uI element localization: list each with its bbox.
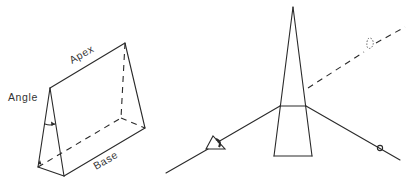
emergent-ray-lower — [166, 149, 208, 173]
prism-cross-section — [274, 7, 312, 156]
label-angle: Angle — [8, 91, 38, 103]
hidden-back-base-edge — [121, 118, 145, 128]
back-right-edge — [125, 43, 145, 128]
emergent-ray-upper — [218, 106, 280, 142]
virtual-image-icon — [367, 38, 373, 48]
virtual-ray — [308, 52, 364, 88]
front-left-edge — [38, 88, 50, 167]
base-edge — [64, 128, 145, 176]
prism-left-face — [274, 7, 293, 156]
incident-ray — [306, 106, 400, 160]
angle-arrow-head-icon — [51, 122, 55, 127]
diagram-canvas: Apex Angle Base — [0, 0, 415, 185]
virtual-ray-end — [376, 27, 405, 43]
prism-3d — [38, 43, 145, 176]
front-right-edge — [50, 88, 64, 176]
label-apex: Apex — [67, 42, 96, 66]
hidden-back-left-edge — [121, 43, 125, 118]
front-base-edge — [38, 167, 64, 176]
eye-icon — [206, 136, 225, 149]
prism-right-face — [293, 7, 312, 156]
